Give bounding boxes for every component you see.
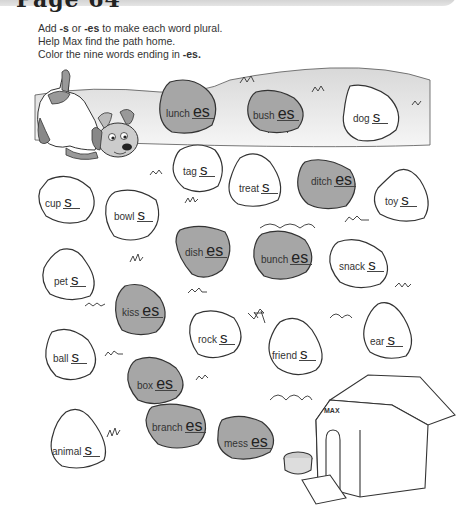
plural-suffix[interactable]: s [71, 350, 88, 364]
stone-branch-label[interactable]: branches [152, 419, 206, 433]
stone-kiss-label[interactable]: kisses [122, 304, 163, 318]
stone-ear-label[interactable]: ears [370, 333, 403, 347]
plural-suffix[interactable]: es [250, 435, 272, 449]
stone-box-label[interactable]: boxes [137, 377, 177, 391]
plural-suffix[interactable]: es [155, 377, 177, 391]
stone-bunch-label[interactable]: bunches [261, 251, 312, 265]
plural-suffix[interactable]: s [83, 443, 100, 457]
plural-suffix[interactable]: s [299, 347, 316, 361]
stone-bowl-label[interactable]: bowls [114, 208, 153, 222]
stone-treat-label[interactable]: treats [239, 180, 278, 194]
plural-suffix[interactable]: s [219, 331, 236, 345]
plural-suffix[interactable]: s [137, 208, 154, 222]
stone-animal [51, 409, 105, 468]
stone-pet-label[interactable]: pets [54, 273, 86, 287]
doghouse-illustration [284, 375, 455, 504]
doghouse-sign: MAX [324, 407, 340, 414]
plural-suffix[interactable]: s [63, 195, 80, 209]
plural-suffix[interactable]: es [205, 244, 227, 258]
stone-animal-label[interactable]: animals [52, 443, 100, 457]
stone-snack-label[interactable]: snacks [339, 258, 384, 272]
plural-suffix[interactable]: s [386, 333, 403, 347]
plural-suffix[interactable]: s [400, 193, 417, 207]
plural-suffix[interactable]: s [70, 273, 87, 287]
stone-dog-label[interactable]: dogs [353, 110, 388, 124]
stone-cup-label[interactable]: cups [45, 195, 80, 209]
stone-toy-label[interactable]: toys [385, 193, 417, 207]
plural-suffix[interactable]: es [290, 251, 312, 265]
dog-illustration [38, 70, 138, 160]
plural-suffix[interactable]: es [277, 107, 299, 121]
stone-dish-label[interactable]: dishes [185, 244, 227, 258]
plural-suffix[interactable]: s [261, 180, 278, 194]
stone-rock-label[interactable]: rocks [198, 331, 235, 345]
stone-friend-label[interactable]: friends [272, 347, 316, 361]
stone-ball-label[interactable]: balls [53, 350, 87, 364]
plural-suffix[interactable]: s [372, 110, 389, 124]
plural-suffix[interactable]: s [367, 258, 384, 272]
plural-suffix[interactable]: es [185, 419, 207, 433]
stone-bush-label[interactable]: bushes [253, 107, 299, 121]
stone-tag-label[interactable]: tags [183, 163, 215, 177]
plural-suffix[interactable]: es [334, 173, 356, 187]
stone-ditch-label[interactable]: ditches [311, 173, 356, 187]
stone-mess-label[interactable]: messes [224, 435, 272, 449]
plural-suffix[interactable]: s [199, 163, 216, 177]
plural-suffix[interactable]: es [141, 304, 163, 318]
plural-suffix[interactable]: es [192, 105, 214, 119]
stone-lunch-label[interactable]: lunches [166, 105, 214, 119]
